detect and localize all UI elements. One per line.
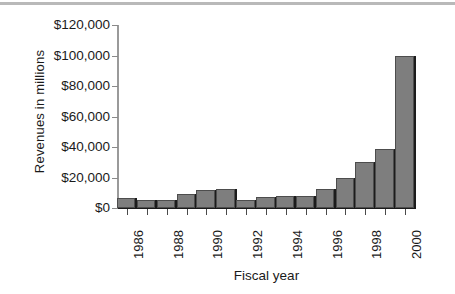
y-axis-tick-mark: [112, 56, 118, 57]
y-axis-tick-mark: [112, 25, 118, 26]
bar: [375, 149, 393, 208]
x-axis-tick-label: 1992: [251, 230, 264, 259]
x-axis-tick-label: 1986: [132, 230, 145, 259]
x-axis-title: Fiscal year: [117, 268, 416, 283]
bar: [256, 197, 274, 208]
x-axis-tick-label: 1998: [370, 230, 383, 259]
bar: [395, 56, 413, 209]
bar: [117, 198, 135, 208]
bar: [137, 200, 155, 208]
x-axis-tick-label: 2000: [410, 230, 423, 259]
y-axis-tick-label: $80,000: [30, 79, 110, 93]
y-axis-tick-label: $40,000: [30, 140, 110, 154]
bar: [316, 189, 334, 208]
y-axis-tick-mark: [112, 147, 118, 148]
bar: [336, 178, 354, 208]
y-axis-tick-labels: $0$20,000$40,000$60,000$80,000$100,000$1…: [28, 0, 110, 294]
y-axis-tick-mark: [112, 86, 118, 87]
y-axis-tick-mark: [112, 117, 118, 118]
bar: [296, 196, 314, 208]
x-axis-tick-labels: 19861988199019921994199619982000: [117, 213, 416, 271]
y-axis-tick-label: $20,000: [30, 171, 110, 185]
y-axis-tick-label: $0: [30, 201, 110, 215]
x-axis-tick-label: 1988: [172, 230, 185, 259]
bar: [276, 196, 294, 208]
y-axis-tick-label: $120,000: [30, 18, 110, 32]
bar: [196, 190, 214, 208]
y-axis-tick-mark: [112, 208, 118, 209]
y-axis-tick-label: $100,000: [30, 49, 110, 63]
plot-area: [117, 25, 415, 208]
y-axis-tick-mark: [112, 178, 118, 179]
x-axis-tick-label: 1990: [211, 230, 224, 259]
bar: [157, 200, 175, 208]
bar: [236, 200, 254, 208]
bar: [355, 162, 373, 208]
bar: [177, 194, 195, 208]
bar-chart-figure: Revenues in millions $0$20,000$40,000$60…: [0, 0, 455, 294]
x-axis-tick-label: 1996: [331, 230, 344, 259]
bar: [216, 189, 234, 208]
x-axis-tick-label: 1994: [291, 230, 304, 259]
y-axis-tick-label: $60,000: [30, 110, 110, 124]
